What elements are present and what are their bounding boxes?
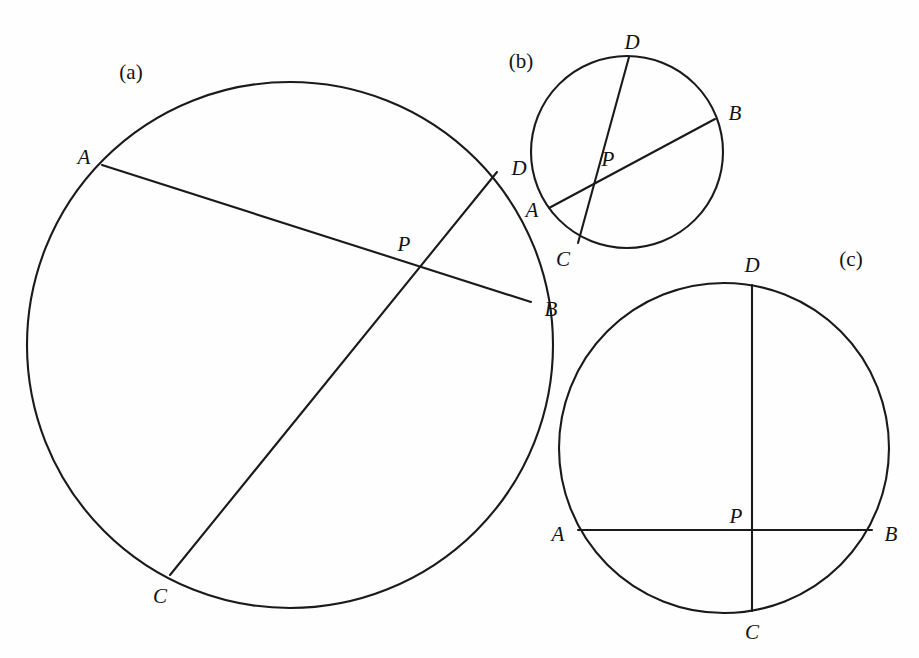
point-label-p-a: P bbox=[398, 234, 411, 255]
panel-caption-c: (c) bbox=[839, 249, 862, 270]
chord-ab-b bbox=[549, 119, 715, 208]
point-label-a-b: A bbox=[526, 200, 539, 221]
point-label-d-a: D bbox=[511, 158, 526, 179]
panel-a bbox=[27, 82, 553, 608]
figure-root: ADPBC(a)DBPAC(b)DAPBC(c) bbox=[0, 0, 919, 658]
circle-outline-b bbox=[531, 56, 723, 248]
point-label-c-a: C bbox=[153, 586, 167, 607]
point-label-b-c: B bbox=[885, 524, 898, 545]
figure-canvas bbox=[0, 0, 919, 658]
panel-b bbox=[531, 56, 723, 248]
circle-outline-c bbox=[559, 283, 889, 613]
point-label-d-b: D bbox=[624, 32, 639, 53]
panel-c bbox=[559, 283, 889, 613]
circle-outline-a bbox=[27, 82, 553, 608]
point-label-d-c: D bbox=[744, 255, 759, 276]
point-label-c-b: C bbox=[556, 249, 570, 270]
chord-ab-a bbox=[102, 165, 531, 302]
point-label-a-a: A bbox=[78, 147, 91, 168]
panel-caption-a: (a) bbox=[119, 62, 142, 83]
chord-cd-a bbox=[170, 172, 497, 575]
point-label-c-c: C bbox=[745, 622, 759, 643]
point-label-b-a: B bbox=[545, 299, 558, 320]
point-label-a-c: A bbox=[552, 524, 565, 545]
point-label-p-c: P bbox=[730, 506, 743, 527]
point-label-p-b: P bbox=[602, 149, 615, 170]
point-label-b-b: B bbox=[729, 103, 742, 124]
panel-caption-b: (b) bbox=[509, 51, 534, 72]
